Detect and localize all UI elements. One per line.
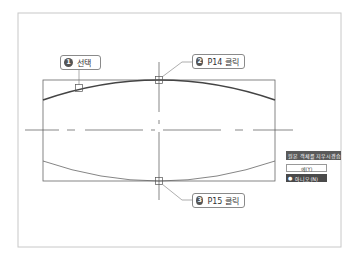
- callout-select: 1 선택: [60, 55, 101, 70]
- callout-p15-click: 3 P15 클릭: [192, 193, 245, 208]
- callout-label: 선택: [77, 57, 91, 68]
- option-no[interactable]: ● 아니오(N): [286, 174, 327, 182]
- callout-label: P15 클릭: [207, 195, 239, 206]
- selected-bullet-icon: ●: [288, 175, 292, 181]
- option-yes[interactable]: 예(Y): [286, 164, 327, 172]
- cad-drawing: [0, 0, 358, 262]
- step-number-3: 3: [196, 196, 203, 205]
- leader-2: [162, 62, 192, 77]
- leader-3: [162, 184, 192, 200]
- callout-label: P14 클릭: [207, 56, 239, 67]
- step-number-1: 1: [64, 58, 73, 67]
- callout-p14-click: 2 P14 클릭: [192, 54, 245, 69]
- step-number-2: 2: [196, 57, 203, 66]
- prompt-header: 원본 객체를 지우시겠습니까?: [286, 151, 341, 160]
- option-no-label: 아니오(N): [295, 175, 318, 182]
